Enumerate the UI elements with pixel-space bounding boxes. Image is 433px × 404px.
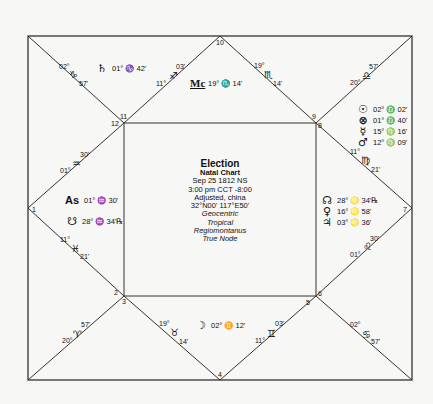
cusp-4-degree: 19° [159, 320, 170, 328]
saturn-position: 01° ♑ 42' [112, 64, 146, 73]
capricorn-icon: ♑ [69, 70, 78, 80]
north-node-icon: ☊ [321, 196, 333, 205]
mars-icon: ♂ [357, 138, 369, 147]
house-number-9: 9 [312, 113, 316, 121]
venus-position: 16° ♌ 58' [337, 207, 371, 216]
cusp-2-degree: 11° [60, 236, 70, 244]
mercury-icon: ☿ [357, 127, 369, 136]
house-number-11: 11 [120, 113, 127, 121]
chart-info: Election Natal Chart Sep 25 1812 NS 3:00… [124, 158, 316, 244]
planet-mercury: ☿ 15° ♍ 16' [357, 127, 407, 136]
planet-ascendant: As 01° ♒ 30' [64, 196, 118, 205]
planet-moon: ☽ 02° ♊ 12' [195, 321, 245, 330]
house-number-12: 12 [111, 120, 119, 128]
part-of-fortune-position: 01° ♎ 40' [373, 116, 407, 125]
planet-north-node: ☊ 28° ♌ 34'℞ [321, 196, 378, 205]
cusp-3-degree: 20° [62, 337, 73, 345]
midheaven-position: 19° ♏ 14' [208, 79, 242, 88]
cusp-11-degree: 11° [156, 80, 166, 88]
virgo-icon: ♍ [361, 156, 370, 166]
planet-venus: ♀ 16° ♌ 58' [321, 207, 371, 216]
gemini-icon: ♊ [267, 329, 276, 339]
midheaven-icon: Mc [190, 79, 204, 88]
house-number-10: 10 [216, 39, 224, 47]
mars-position: 12° ♍ 09' [373, 138, 407, 147]
cusp-3-minute: 57' [81, 321, 90, 329]
planet-sun: ☉ 02° ♎ 02' [357, 105, 407, 114]
house-number-5: 5 [306, 299, 310, 307]
cusp-7-degree: 01° [350, 251, 361, 259]
north-node-position: 28° ♌ 34'℞ [337, 196, 378, 205]
cusp-9-minute: 57' [369, 63, 378, 71]
house-number-7: 7 [403, 206, 407, 214]
ascendant-position: 01° ♒ 30' [84, 196, 118, 205]
south-node-position: 28° ♒ 34'℞ [82, 217, 123, 226]
chart-node: True Node [124, 235, 316, 243]
cusp-8-degree: 11° [350, 148, 360, 156]
cusp-10-minute: 14' [273, 80, 282, 88]
house-number-2: 2 [114, 289, 118, 297]
south-node-icon: ☋ [66, 217, 78, 226]
cusp-11-minute: 03' [176, 63, 185, 71]
cusp-12-minute: 57' [79, 80, 88, 88]
cusp-9-degree: 20° [350, 79, 361, 87]
moon-position: 02° ♊ 12' [211, 321, 245, 330]
planet-south-node: ☋ 28° ♒ 34'℞ [66, 217, 123, 226]
leo-icon: ♌ [363, 242, 372, 252]
venus-icon: ♀ [321, 207, 333, 216]
cusp-1-degree: 01° [60, 167, 71, 175]
planet-part-of-fortune: ⊗ 01° ♎ 40' [357, 116, 407, 125]
house-number-8: 8 [318, 122, 322, 130]
house-number-3: 3 [122, 298, 126, 306]
moon-icon: ☽ [195, 321, 207, 330]
jupiter-position: 03° ♌ 36' [337, 218, 371, 227]
planet-mars: ♂ 12° ♍ 09' [357, 138, 407, 147]
jupiter-icon: ♃ [321, 218, 333, 227]
sun-icon: ☉ [357, 105, 369, 114]
cusp-12-degree: 02° [59, 63, 70, 71]
cusp-8-minute: 21' [371, 166, 380, 174]
cusp-5-degree: 11° [255, 337, 265, 345]
sun-position: 02° ♎ 02' [373, 105, 407, 114]
aquarius-icon: ♒ [72, 159, 81, 169]
cusp-2-minute: 21' [80, 253, 89, 261]
part-of-fortune-icon: ⊗ [357, 116, 369, 125]
house-number-4: 4 [218, 371, 222, 379]
planet-saturn: ♄ 01° ♑ 42' [96, 64, 146, 73]
planet-jupiter: ♃ 03° ♌ 36' [321, 218, 371, 227]
cusp-5-minute: 03' [275, 320, 284, 328]
sagittarius-icon: ♐ [169, 71, 178, 81]
planet-midheaven: Mc 19° ♏ 14' [190, 79, 242, 88]
cusp-4-minute: 14' [179, 338, 188, 346]
house-number-1: 1 [32, 206, 36, 214]
pisces-icon: ♓ [71, 244, 80, 254]
house-number-6: 6 [318, 290, 322, 298]
saturn-icon: ♄ [96, 64, 108, 73]
cancer-icon: ♋ [362, 330, 371, 340]
scorpio-icon: ♏ [264, 70, 273, 80]
taurus-icon: ♉ [170, 328, 179, 338]
cusp-6-minute: 57' [371, 338, 380, 346]
cusp-1-minute: 30' [80, 151, 89, 159]
cusp-10-degree: 19° [254, 62, 265, 70]
ascendant-icon: As [64, 196, 80, 205]
mercury-position: 15° ♍ 16' [373, 127, 407, 136]
cusp-7-minute: 30' [370, 235, 379, 243]
libra-icon: ♎ [362, 71, 371, 81]
cusp-6-degree: 02° [350, 321, 361, 329]
aries-icon: ♈ [73, 330, 82, 340]
